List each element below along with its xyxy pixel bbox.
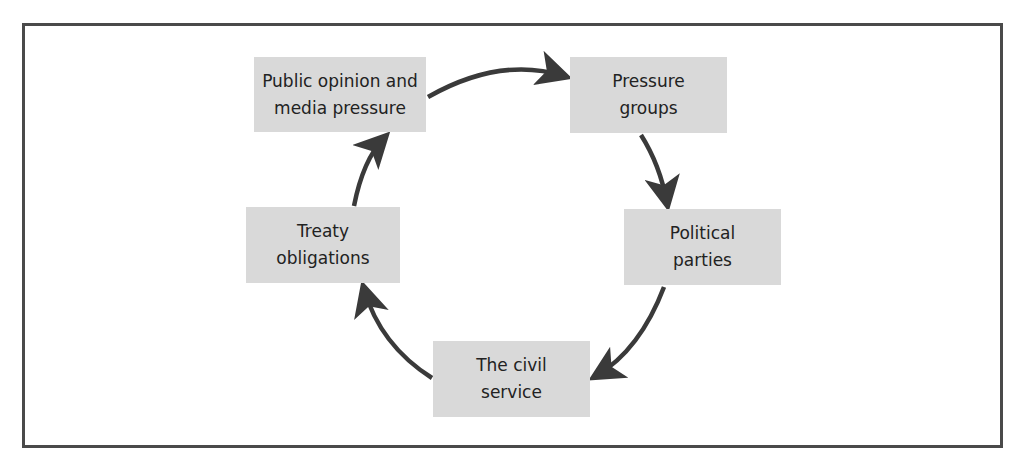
node-label: Treaty obligations <box>276 218 369 272</box>
node-public-opinion: Public opinion and media pressure <box>254 57 426 132</box>
node-label: Political parties <box>670 220 735 274</box>
node-label: Pressure groups <box>612 68 685 122</box>
node-label: Public opinion and media pressure <box>262 68 418 122</box>
node-pressure-groups: Pressure groups <box>570 57 727 133</box>
node-political-parties: Political parties <box>624 209 781 285</box>
node-treaty-obligations: Treaty obligations <box>246 207 400 283</box>
node-civil-service: The civil service <box>433 341 590 417</box>
arrow-pressure-groups-to-political-parties <box>641 135 667 203</box>
arrow-civil-service-to-treaty-obligations <box>364 289 432 378</box>
arrow-political-parties-to-civil-service <box>596 287 664 376</box>
node-label: The civil service <box>476 352 547 406</box>
arrow-treaty-obligations-to-public-opinion <box>354 138 384 206</box>
arrow-public-opinion-to-pressure-groups <box>428 69 564 97</box>
